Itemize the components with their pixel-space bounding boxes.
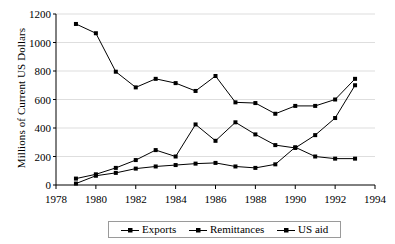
legend-marker-icon — [121, 226, 139, 235]
data-point-remittances-1991 — [313, 133, 317, 137]
data-point-us-aid-1980 — [94, 174, 98, 178]
data-point-us-aid-1981 — [114, 171, 118, 175]
x-tick-label: 1978 — [45, 193, 68, 205]
y-axis-title: Millions of Current US Dollars — [15, 3, 27, 193]
x-tick-label: 1984 — [165, 193, 188, 205]
x-tick-label: 1994 — [364, 193, 387, 205]
data-point-remittances-1988 — [253, 132, 257, 136]
data-point-exports-1981 — [114, 70, 118, 74]
data-point-exports-1982 — [134, 85, 138, 89]
data-point-remittances-1984 — [174, 155, 178, 159]
data-point-remittances-1986 — [214, 139, 218, 143]
data-point-exports-1979 — [74, 22, 78, 26]
legend-label-exports: Exports — [142, 223, 176, 235]
legend-marker-icon — [277, 226, 295, 235]
data-point-remittances-1993 — [353, 83, 357, 87]
series-line-exports — [76, 24, 355, 114]
data-point-exports-1986 — [214, 74, 218, 78]
legend-item-us-aid[interactable]: US aid — [277, 223, 328, 235]
data-point-exports-1991 — [313, 104, 317, 108]
x-tick-label: 1982 — [125, 193, 147, 205]
data-point-exports-1987 — [233, 100, 237, 104]
data-point-exports-1988 — [253, 101, 257, 105]
x-tick-label: 1988 — [244, 193, 267, 205]
data-point-remittances-1987 — [233, 120, 237, 124]
data-point-remittances-1979 — [74, 177, 78, 181]
data-point-remittances-1989 — [273, 143, 277, 147]
legend-label-us-aid: US aid — [298, 223, 328, 235]
data-point-exports-1983 — [154, 77, 158, 81]
data-point-us-aid-1991 — [313, 155, 317, 159]
data-point-us-aid-1984 — [174, 163, 178, 167]
data-point-exports-1993 — [353, 77, 357, 81]
data-point-exports-1984 — [174, 81, 178, 85]
data-point-us-aid-1982 — [134, 167, 138, 171]
data-point-remittances-1981 — [114, 166, 118, 170]
data-point-us-aid-1993 — [353, 157, 357, 161]
data-point-us-aid-1989 — [273, 162, 277, 166]
data-point-remittances-1982 — [134, 158, 138, 162]
chart-legend: Exports Remittances US aid — [108, 221, 341, 238]
data-point-exports-1990 — [293, 104, 297, 108]
y-tick-label: 600 — [35, 94, 52, 106]
data-point-us-aid-1985 — [194, 162, 198, 166]
plot-area: 0200400600800100012001978198019821984198… — [56, 14, 375, 185]
data-point-us-aid-1986 — [214, 161, 218, 165]
data-point-us-aid-1983 — [154, 164, 158, 168]
legend-item-remittances[interactable]: Remittances — [189, 223, 264, 235]
chart-svg: 0200400600800100012001978198019821984198… — [56, 14, 375, 185]
data-point-us-aid-1990 — [293, 145, 297, 149]
series-line-us-aid — [76, 147, 355, 183]
data-point-remittances-1992 — [333, 116, 337, 120]
y-tick-label: 0 — [46, 179, 52, 191]
y-tick-label: 800 — [35, 65, 52, 77]
y-tick-label: 1000 — [29, 37, 52, 49]
legend-marker-icon — [189, 226, 207, 235]
data-point-remittances-1985 — [194, 122, 198, 126]
data-point-exports-1985 — [194, 89, 198, 93]
y-tick-label: 400 — [35, 122, 52, 134]
data-point-us-aid-1979 — [74, 182, 78, 186]
data-point-us-aid-1987 — [233, 164, 237, 168]
data-point-us-aid-1992 — [333, 157, 337, 161]
y-tick-label: 200 — [35, 151, 52, 163]
x-tick-label: 1990 — [284, 193, 307, 205]
y-tick-label: 1200 — [29, 8, 52, 20]
x-tick-label: 1986 — [205, 193, 228, 205]
x-tick-label: 1980 — [85, 193, 108, 205]
data-point-remittances-1983 — [154, 148, 158, 152]
data-point-us-aid-1988 — [253, 166, 257, 170]
data-point-exports-1980 — [94, 31, 98, 35]
legend-item-exports[interactable]: Exports — [121, 223, 176, 235]
line-chart: Millions of Current US Dollars 020040060… — [0, 0, 395, 244]
data-point-exports-1989 — [273, 112, 277, 116]
data-point-exports-1992 — [333, 98, 337, 102]
legend-label-remittances: Remittances — [210, 223, 264, 235]
x-tick-label: 1992 — [324, 193, 346, 205]
